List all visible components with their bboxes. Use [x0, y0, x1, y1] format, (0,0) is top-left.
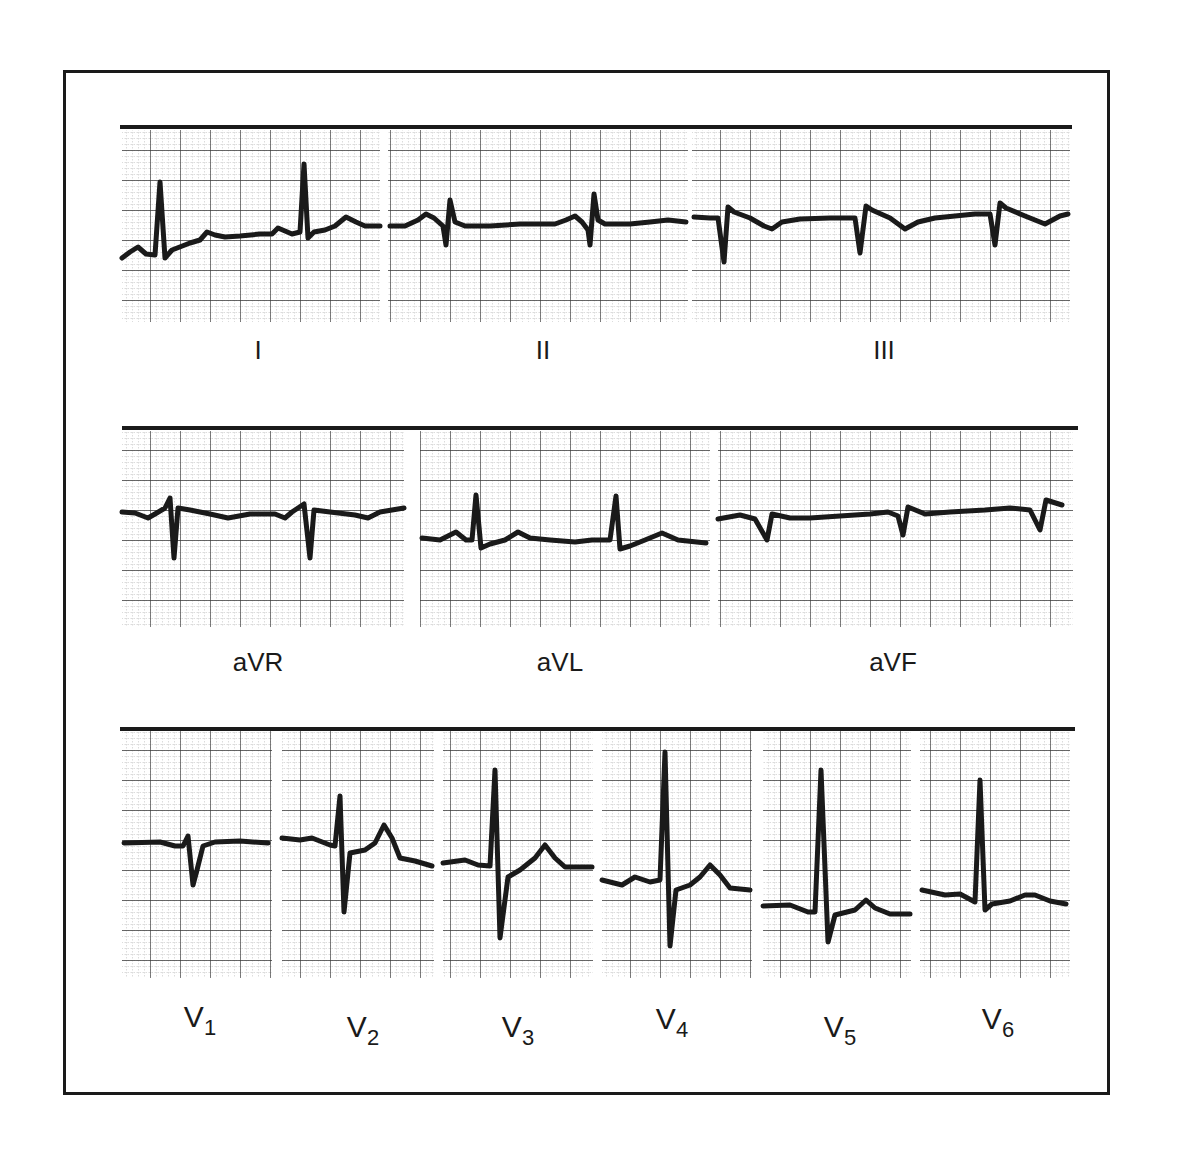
grid-panel-V2	[282, 731, 434, 978]
lead-label-V3: V3	[458, 1010, 578, 1051]
ecg-figure	[0, 0, 1184, 1154]
lead-label-V6: V6	[938, 1002, 1058, 1043]
grid-panel-aVR	[122, 431, 404, 627]
grid-panel-V6	[920, 731, 1070, 978]
lead-label-V1: V1	[140, 1000, 260, 1041]
lead-name: I	[254, 335, 261, 365]
grid-panel-V5	[763, 731, 911, 978]
lead-label-V4: V4	[612, 1002, 732, 1043]
grid-panels	[122, 130, 1073, 978]
lead-name: V	[347, 1010, 367, 1043]
lead-subscript: 5	[844, 1025, 856, 1050]
grid-panel-V4	[602, 731, 752, 978]
lead-subscript: 1	[204, 1015, 216, 1040]
lead-subscript: 6	[1002, 1017, 1014, 1042]
grid-panel-V1	[122, 731, 272, 978]
lead-name: aVR	[233, 647, 284, 677]
lead-name: V	[502, 1010, 522, 1043]
grid-panel-III	[692, 130, 1070, 322]
lead-name: V	[184, 1000, 204, 1033]
lead-label-III: III	[824, 335, 944, 366]
lead-name: III	[873, 335, 895, 365]
lead-label-I: I	[198, 335, 318, 366]
lead-label-aVF: aVF	[833, 647, 953, 678]
lead-name: II	[536, 335, 550, 365]
lead-subscript: 2	[367, 1025, 379, 1050]
lead-label-II: II	[483, 335, 603, 366]
grid-panel-V3	[443, 731, 593, 978]
lead-name: V	[824, 1010, 844, 1043]
lead-name: V	[656, 1002, 676, 1035]
lead-label-aVL: aVL	[500, 647, 620, 678]
lead-label-V2: V2	[303, 1010, 423, 1051]
lead-subscript: 3	[522, 1025, 534, 1050]
lead-name: aVL	[537, 647, 583, 677]
lead-name: V	[982, 1002, 1002, 1035]
lead-label-V5: V5	[780, 1010, 900, 1051]
lead-name: aVF	[869, 647, 917, 677]
grid-panel-aVL	[420, 431, 710, 627]
lead-subscript: 4	[676, 1017, 688, 1042]
lead-label-aVR: aVR	[198, 647, 318, 678]
